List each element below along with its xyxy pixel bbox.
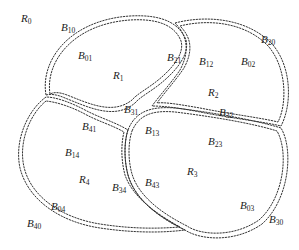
region-label-r1: R1: [113, 70, 123, 83]
region-subscript: 4: [86, 178, 90, 187]
boundary-symbol: B: [51, 200, 58, 212]
boundary-symbol: B: [208, 135, 215, 147]
boundary-label-b02: B02: [241, 56, 255, 69]
boundary-subscript: 30: [276, 218, 284, 227]
boundary-subscript: 01: [85, 54, 93, 63]
boundary-subscript: 43: [152, 181, 160, 190]
boundary-subscript: 02: [248, 60, 256, 69]
boundary-symbol: B: [145, 176, 152, 188]
boundary-subscript: 20: [268, 38, 276, 47]
boundary-symbol: B: [124, 103, 131, 115]
boundary-label-b43: B43: [145, 177, 159, 190]
boundary-label-b13: B13: [145, 125, 159, 138]
boundary-symbol: B: [27, 217, 34, 229]
boundary-label-b32: B32: [219, 107, 233, 120]
boundary-subscript: 13: [152, 129, 160, 138]
boundary-label-b34: B34: [112, 182, 126, 195]
boundary-symbol: B: [240, 199, 247, 211]
region-symbol: R: [113, 69, 120, 81]
boundary-label-b01: B01: [78, 50, 92, 63]
boundary-symbol: B: [219, 106, 226, 118]
boundary-symbol: B: [78, 49, 85, 61]
region-subscript: 2: [215, 91, 219, 100]
boundary-subscript: 31: [131, 108, 139, 117]
boundary-subscript: 41: [89, 125, 97, 134]
boundary-label-b14: B14: [65, 147, 79, 160]
boundary-symbol: B: [145, 124, 152, 136]
region-symbol: R: [79, 173, 86, 185]
boundary-subscript: 03: [247, 204, 255, 213]
boundary-subscript: 32: [226, 111, 234, 120]
boundary-label-b41: B41: [82, 121, 96, 134]
boundary-label-b21: B21: [167, 52, 181, 65]
boundary-subscript: 10: [68, 26, 76, 35]
boundary-label-b04: B04: [51, 201, 65, 214]
boundary-subscript: 23: [215, 140, 223, 149]
boundary-label-b10: B10: [61, 22, 75, 35]
boundary-symbol: B: [269, 213, 276, 225]
boundary-label-b20: B20: [261, 34, 275, 47]
region-subscript: 3: [194, 170, 198, 179]
boundary-subscript: 14: [72, 151, 80, 160]
boundary-subscript: 12: [206, 60, 214, 69]
boundary-symbol: B: [167, 51, 174, 63]
region-symbol: R: [21, 12, 28, 24]
boundary-symbol: B: [112, 181, 119, 193]
boundary-subscript: 04: [58, 205, 66, 214]
boundary-symbol: B: [65, 146, 72, 158]
boundary-subscript: 34: [119, 186, 127, 195]
boundary-label-b30: B30: [269, 214, 283, 227]
boundary-symbol: B: [82, 120, 89, 132]
region-label-r2: R2: [208, 87, 218, 100]
region-label-r3: R3: [187, 166, 197, 179]
boundary-subscript: 21: [174, 56, 182, 65]
boundary-symbol: B: [241, 55, 248, 67]
region-subscript: 0: [28, 17, 32, 26]
boundary-subscript: 40: [34, 222, 42, 231]
boundary-symbol: B: [199, 55, 206, 67]
boundary-label-b03: B03: [240, 200, 254, 213]
boundary-band-r4: [19, 97, 185, 232]
boundary-symbol: B: [261, 33, 268, 45]
boundary-label-b23: B23: [208, 136, 222, 149]
boundary-label-b31: B31: [124, 104, 138, 117]
region-symbol: R: [208, 86, 215, 98]
region-symbol: R: [187, 165, 194, 177]
region-subscript: 1: [120, 74, 124, 83]
boundary-label-b12: B12: [199, 56, 213, 69]
region-label-r0: R0: [21, 13, 31, 26]
boundary-label-b40: B40: [27, 218, 41, 231]
region-label-r4: R4: [79, 174, 89, 187]
boundary-symbol: B: [61, 21, 68, 33]
